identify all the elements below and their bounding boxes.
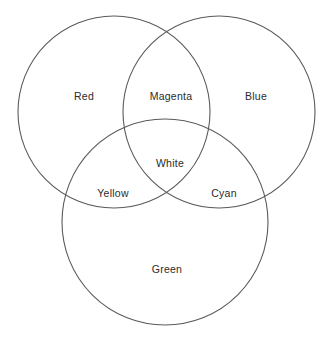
label-yellow: Yellow: [97, 188, 128, 199]
label-green: Green: [152, 264, 182, 275]
venn-circles-svg: [0, 0, 334, 341]
label-red: Red: [74, 91, 94, 102]
label-magenta: Magenta: [150, 91, 193, 102]
label-cyan: Cyan: [211, 188, 237, 199]
circle-green: [62, 119, 268, 325]
circle-red: [18, 16, 210, 208]
label-white: White: [156, 158, 184, 169]
label-blue: Blue: [245, 91, 267, 102]
venn-diagram: Red Magenta Blue White Yellow Cyan Green: [0, 0, 334, 341]
circle-blue: [123, 16, 315, 208]
